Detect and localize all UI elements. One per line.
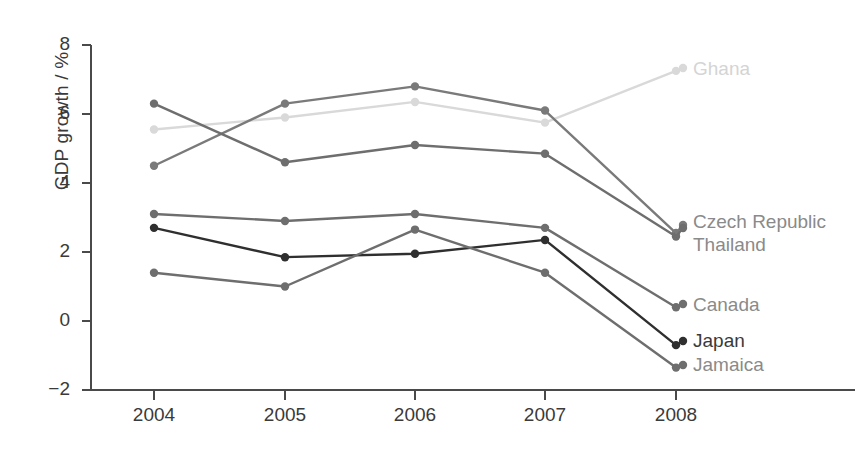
series-thailand <box>150 99 680 240</box>
data-point <box>411 82 419 90</box>
series-label-japan: Japan <box>693 330 745 352</box>
series-label-jamaica: Jamaica <box>693 354 764 376</box>
y-tick-2: 2 <box>30 240 70 262</box>
data-point <box>541 106 549 114</box>
x-axis-ticks <box>154 390 676 400</box>
data-point <box>541 149 549 157</box>
series-ghana <box>150 67 680 134</box>
series-layer <box>150 67 680 372</box>
x-tick-2004: 2004 <box>114 404 194 426</box>
series-japan <box>150 224 680 350</box>
data-point <box>281 99 289 107</box>
data-point <box>150 210 158 218</box>
data-point <box>281 113 289 121</box>
series-label-ghana: Ghana <box>693 58 750 80</box>
data-point <box>541 118 549 126</box>
data-point <box>411 141 419 149</box>
series-jamaica <box>150 225 680 371</box>
x-tick-2008: 2008 <box>636 404 716 426</box>
data-point <box>150 224 158 232</box>
x-tick-2005: 2005 <box>245 404 325 426</box>
data-point <box>281 282 289 290</box>
data-point <box>411 98 419 106</box>
series-label-thailand: Thailand <box>693 234 766 256</box>
data-point <box>541 224 549 232</box>
x-tick-2007: 2007 <box>505 404 585 426</box>
series-canada <box>150 210 680 312</box>
y-tick-minus2: −2 <box>30 378 70 400</box>
label-anchor-dot <box>679 361 687 369</box>
y-tick-6: 6 <box>30 102 70 124</box>
data-point <box>281 158 289 166</box>
label-anchor-dot <box>679 64 687 72</box>
label-anchor-dot <box>679 337 687 345</box>
y-tick-8: 8 <box>30 33 70 55</box>
data-point <box>150 162 158 170</box>
data-point <box>150 125 158 133</box>
data-point <box>150 269 158 277</box>
y-tick-0: 0 <box>30 309 70 331</box>
label-anchor-dot <box>679 224 687 232</box>
gdp-growth-line-chart: GDP growth / % 8 6 4 2 0 −2 2004 2005 20… <box>0 0 863 454</box>
x-tick-2006: 2006 <box>375 404 455 426</box>
series-label-canada: Canada <box>693 294 760 316</box>
data-point <box>411 210 419 218</box>
data-point <box>541 269 549 277</box>
data-point <box>281 217 289 225</box>
y-axis-ticks <box>82 45 91 390</box>
data-point <box>150 99 158 107</box>
data-point <box>411 250 419 258</box>
data-point <box>411 225 419 233</box>
y-tick-4: 4 <box>30 171 70 193</box>
series-label-czech-republic: Czech Republic <box>693 211 826 233</box>
label-leader-lines <box>676 64 687 369</box>
data-point <box>541 236 549 244</box>
label-anchor-dot <box>679 300 687 308</box>
data-point <box>281 253 289 261</box>
